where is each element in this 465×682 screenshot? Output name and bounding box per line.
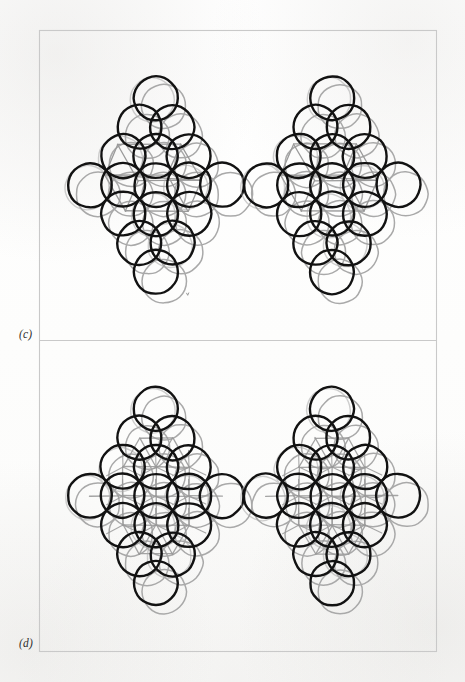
front-sphere-outline (310, 561, 354, 605)
front-layer-spheres (68, 76, 244, 293)
figure-page: (c) (d) (0, 0, 465, 682)
cluster-d-right (241, 387, 428, 614)
front-sphere-outline (134, 250, 178, 294)
panel-label-c: (c) (19, 328, 32, 340)
panel-label-d: (d) (19, 637, 33, 649)
sphere-packing-figure (0, 0, 465, 682)
cluster-c-left (65, 76, 253, 303)
panel-c (65, 76, 428, 303)
cluster-c-right (241, 76, 429, 303)
front-layer-spheres (244, 387, 420, 606)
front-sphere-outline (310, 250, 354, 294)
cluster-d-left (66, 387, 252, 614)
front-layer-spheres (244, 76, 420, 294)
stray-pencil-mark (187, 293, 189, 295)
panel-d (66, 387, 428, 614)
front-sphere-outline (134, 561, 178, 605)
front-layer-spheres (68, 387, 243, 605)
